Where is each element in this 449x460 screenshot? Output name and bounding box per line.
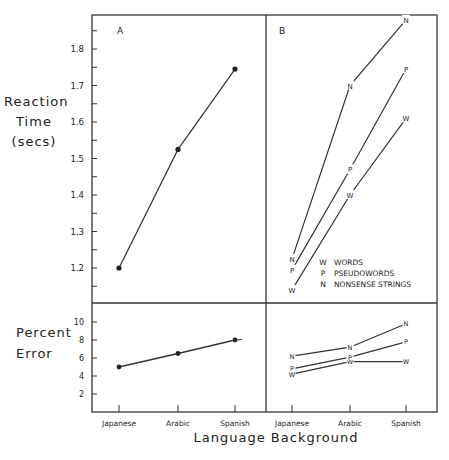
xlabel: Language Background: [166, 430, 386, 445]
ylabel-bottom: Percent Error: [16, 322, 72, 364]
marker-n: N: [347, 83, 352, 91]
err-tick-label: 6: [79, 354, 84, 363]
panel-b-label: B: [279, 26, 285, 36]
marker-p: P: [348, 354, 352, 362]
marker-p: P: [404, 66, 408, 74]
marker-p: P: [348, 166, 352, 174]
ylabel-top-line1: Reaction: [4, 92, 64, 112]
ylabel-top: Reaction Time (secs): [4, 92, 64, 152]
plot-frame: [92, 15, 437, 412]
rt-tick-label: 1.4: [70, 190, 84, 200]
x-tick-label-spanish: Spanish: [220, 419, 250, 428]
legend-marker-n: N: [320, 280, 326, 289]
legend-label-p: PSEUDOWORDS: [334, 269, 394, 278]
marker-n: N: [290, 353, 295, 361]
x-tick-label-spanish: Spanish: [391, 419, 421, 428]
chart-figure: AB1.81.71.61.51.41.31.2108642JapaneseAra…: [0, 0, 449, 460]
series-line-b-rt-n: [292, 20, 406, 259]
series-line-a-rt: [119, 69, 235, 268]
x-tick-label-japanese: Japanese: [274, 419, 309, 428]
err-tick-label: 10: [74, 318, 84, 327]
rt-tick-label: 1.8: [70, 44, 84, 54]
marker-n: N: [348, 344, 353, 352]
legend-label-w: WORDS: [334, 258, 363, 267]
rt-tick-label: 1.6: [70, 117, 84, 127]
err-tick-label: 2: [79, 390, 84, 399]
legend-marker-w: W: [319, 258, 327, 267]
data-point: [116, 265, 121, 270]
marker-w: W: [403, 358, 410, 366]
data-point: [176, 351, 181, 356]
marker-n: N: [403, 17, 408, 25]
err-tick-label: 8: [79, 336, 84, 345]
marker-p: P: [290, 365, 294, 373]
legend-marker-p: P: [321, 269, 326, 278]
ylabel-bottom-line1: Percent: [16, 322, 72, 343]
data-point: [232, 66, 237, 71]
marker-p: P: [404, 338, 408, 346]
marker-n: N: [404, 320, 409, 328]
data-point: [233, 338, 238, 343]
rt-tick-label: 1.3: [70, 227, 84, 237]
ylabel-top-line3: (secs): [4, 132, 64, 152]
ylabel-bottom-line2: Error: [16, 343, 72, 364]
rt-tick-label: 1.7: [70, 81, 84, 91]
ylabel-top-line2: Time: [4, 112, 64, 132]
x-tick-label-japanese: Japanese: [101, 419, 136, 428]
x-tick-label-arabic: Arabic: [166, 419, 190, 428]
panel-a-label: A: [117, 26, 124, 36]
marker-w: W: [403, 115, 410, 123]
x-tick-label-arabic: Arabic: [338, 419, 362, 428]
data-point: [117, 365, 122, 370]
marker-n: N: [289, 256, 294, 264]
data-point: [175, 147, 180, 152]
marker-w: W: [347, 192, 354, 200]
marker-p: P: [290, 267, 294, 275]
rt-tick-label: 1.2: [70, 263, 84, 273]
marker-w: W: [289, 287, 296, 295]
rt-tick-label: 1.5: [70, 154, 84, 164]
legend-label-n: NONSENSE STRINGS: [334, 280, 411, 289]
err-tick-label: 4: [79, 372, 84, 381]
